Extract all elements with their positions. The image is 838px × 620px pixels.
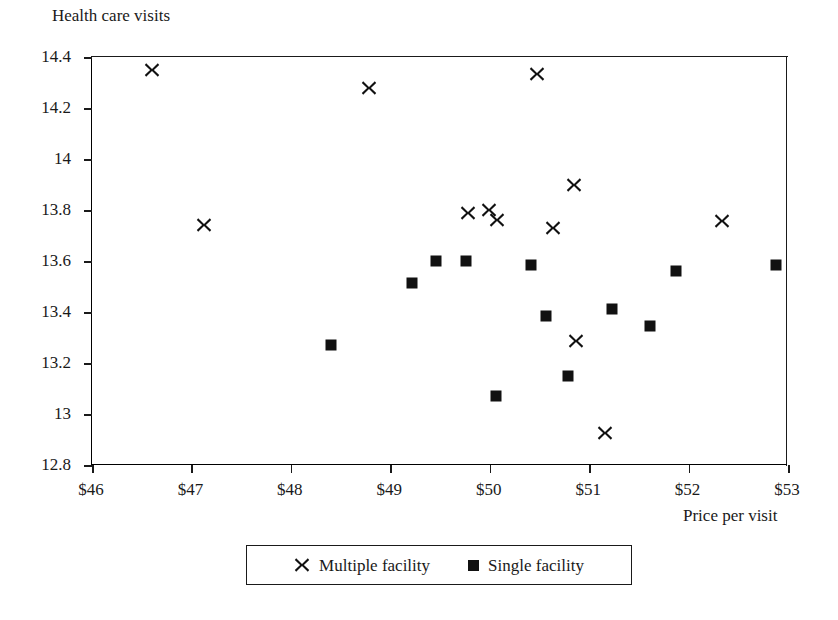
y-axis-tick	[84, 414, 92, 416]
y-axis-tick-label: 14	[54, 150, 71, 167]
data-point-single-facility	[607, 304, 618, 315]
data-point-single-facility	[644, 321, 655, 332]
data-point-multiple-facility	[460, 205, 476, 221]
x-axis-title: Price per visit	[683, 506, 777, 526]
x-axis-tick	[589, 465, 591, 473]
y-axis-tick	[84, 210, 92, 212]
y-axis-tick-label: 13.2	[41, 354, 71, 371]
legend-item: Single facility	[468, 556, 584, 575]
x-axis-tick-label: $49	[359, 481, 419, 498]
y-axis-tick	[84, 261, 92, 263]
x-axis-tick	[191, 465, 193, 473]
y-axis-tick-label: 13.8	[41, 201, 71, 218]
x-axis-tick	[291, 465, 293, 473]
data-point-single-facility	[325, 340, 336, 351]
data-point-single-facility	[670, 266, 681, 277]
data-point-multiple-facility	[545, 220, 561, 236]
y-axis-tick-label: 12.8	[41, 456, 71, 473]
x-axis-tick	[689, 465, 691, 473]
data-point-multiple-facility	[196, 217, 212, 233]
y-axis-tick	[84, 159, 92, 161]
data-point-single-facility	[771, 259, 782, 270]
data-point-single-facility	[431, 256, 442, 267]
x-axis-tick-label: $47	[160, 481, 220, 498]
scatter-chart-figure: Health care visits Price per visit 12.81…	[0, 0, 838, 620]
data-point-multiple-facility	[361, 80, 377, 96]
y-axis-tick-label: 14.2	[41, 99, 71, 116]
data-point-multiple-facility	[714, 213, 730, 229]
data-point-multiple-facility	[489, 212, 505, 228]
data-point-multiple-facility	[529, 66, 545, 82]
x-axis-tick-label: $51	[558, 481, 618, 498]
x-axis-tick	[92, 465, 94, 473]
y-axis-tick	[84, 57, 92, 59]
data-point-single-facility	[563, 370, 574, 381]
legend-item-label: Multiple facility	[319, 556, 430, 575]
x-axis-tick-label: $52	[658, 481, 718, 498]
plot-area	[91, 57, 787, 465]
x-axis-tick	[390, 465, 392, 473]
y-axis-labels: 12.81313.213.413.613.81414.214.4	[0, 57, 83, 465]
y-axis-tick	[84, 312, 92, 314]
legend-item-label: Single facility	[488, 556, 584, 575]
y-axis-tick-label: 13	[54, 405, 71, 422]
x-axis-tick	[788, 465, 790, 473]
y-axis-title: Health care visits	[52, 6, 170, 26]
data-point-single-facility	[526, 259, 537, 270]
x-axis-tick	[490, 465, 492, 473]
x-axis-tick-label: $46	[61, 481, 121, 498]
data-point-multiple-facility	[568, 333, 584, 349]
legend-square-icon	[468, 560, 479, 571]
data-point-multiple-facility	[144, 62, 160, 78]
data-point-multiple-facility	[566, 177, 582, 193]
data-point-single-facility	[407, 277, 418, 288]
legend-item: Multiple facility	[294, 556, 430, 575]
data-point-single-facility	[490, 391, 501, 402]
y-axis-tick-label: 13.4	[41, 303, 71, 320]
x-axis-tick-label: $48	[260, 481, 320, 498]
y-axis-tick	[84, 363, 92, 365]
x-axis-tick-label: $53	[757, 481, 817, 498]
legend-x-icon	[294, 557, 310, 573]
y-axis-tick-label: 13.6	[41, 252, 71, 269]
y-axis-tick	[84, 465, 92, 467]
data-point-single-facility	[541, 310, 552, 321]
data-point-multiple-facility	[597, 425, 613, 441]
x-axis-tick-label: $50	[459, 481, 519, 498]
chart-legend: Multiple facilitySingle facility	[246, 545, 632, 585]
y-axis-tick	[84, 108, 92, 110]
data-point-single-facility	[460, 256, 471, 267]
x-axis-labels: $46$47$48$49$50$51$52$53	[91, 473, 788, 499]
y-axis-tick-label: 14.4	[41, 48, 71, 65]
